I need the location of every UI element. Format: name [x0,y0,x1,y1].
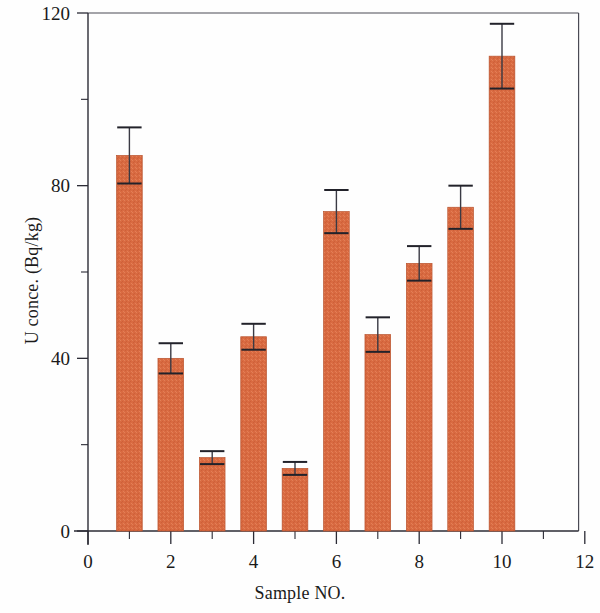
bar-sample-3 [199,458,225,531]
x-tick-label-4: 4 [249,551,259,572]
bar-sample-1 [117,155,143,531]
y-tick-label-40: 40 [51,348,70,369]
bar-group-4 [241,337,267,531]
bar-group-1 [117,155,143,531]
y-tick-label-120: 120 [42,3,71,24]
x-tick-label-6: 6 [332,551,342,572]
bar-sample-5 [282,468,308,531]
bar-sample-10 [489,56,515,531]
bar-sample-9 [448,207,474,531]
bar-group-9 [448,207,474,531]
x-tick-label-8: 8 [414,551,424,572]
x-tick-label-0: 0 [83,551,93,572]
x-tick-label-2: 2 [166,551,176,572]
y-tick-label-0: 0 [61,521,71,542]
chart-figure: 04080120024681012 U conce. (Bq/kg) Sampl… [0,0,600,613]
bar-group-5 [282,468,308,531]
y-tick-label-80: 80 [51,175,70,196]
y-axis-title: U conce. (Bq/kg) [22,191,43,371]
bar-group-8 [406,263,432,531]
bar-sample-8 [406,263,432,531]
bar-sample-2 [158,358,184,531]
bar-chart-canvas: 04080120024681012 [0,0,600,613]
x-axis-title: Sample NO. [0,583,600,604]
bar-group-2 [158,358,184,531]
bar-sample-6 [324,212,350,531]
bar-group-10 [489,56,515,531]
bar-group-6 [324,212,350,531]
bar-group-3 [199,458,225,531]
x-tick-label-12: 12 [575,551,594,572]
bar-group-7 [365,335,391,531]
bar-sample-4 [241,337,267,531]
x-tick-label-10: 10 [493,551,512,572]
bar-sample-7 [365,335,391,531]
